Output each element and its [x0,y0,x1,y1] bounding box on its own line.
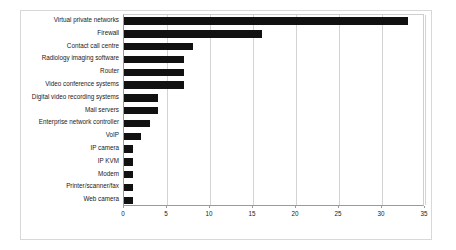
x-tick-label-20: 20 [291,210,298,217]
category-label: IP camera [90,142,119,155]
bar-row [124,66,423,79]
category-label: Web camera [83,193,119,206]
category-label: Video conference systems [45,78,119,91]
x-tick-mark-10 [209,206,210,208]
bar-row [124,181,423,194]
bar [124,30,262,37]
category-label: Virtual private networks [54,14,119,27]
x-tick-label-35: 35 [420,210,427,217]
bar-row [124,117,423,130]
bar [124,197,133,204]
bar-row [124,41,423,54]
category-label: Digital video recording systems [32,91,119,104]
bar-row [124,15,423,28]
bar [124,43,193,50]
x-tick-mark-35 [424,206,425,208]
category-label: Printer/scanner/fax [66,180,119,193]
bar [124,56,184,63]
x-tick-mark-5 [166,206,167,208]
bar [124,107,158,114]
bar [124,184,133,191]
bar [124,120,150,127]
x-tick-label-0: 0 [121,210,125,217]
bar-chart: Virtual private networksFirewallContact … [0,0,456,250]
bar [124,158,133,165]
category-label: Contact call centre [67,40,119,53]
x-tick-mark-30 [381,206,382,208]
x-tick-mark-15 [252,206,253,208]
bar [124,81,184,88]
bar-row [124,105,423,118]
x-tick-label-30: 30 [377,210,384,217]
bar-rows [124,15,423,205]
gridline-35 [425,15,426,205]
x-tick-label-10: 10 [205,210,212,217]
category-label: Enterprise network controller [39,116,119,129]
bar [124,145,133,152]
category-label: Firewall [97,27,119,40]
bar-row [124,92,423,105]
category-label: Router [100,65,119,78]
category-label: VoIP [106,129,119,142]
x-tick-label-25: 25 [334,210,341,217]
bar [124,69,184,76]
x-tick-label-15: 15 [248,210,255,217]
bar [124,17,408,24]
bar-row [124,194,423,207]
bar [124,133,141,140]
plot-area [123,14,424,206]
category-label: Modem [98,168,119,181]
category-label: Radiology imaging software [42,52,119,65]
x-tick-mark-20 [295,206,296,208]
bar-row [124,156,423,169]
x-axis-ticks: 05101520253035 [123,208,424,222]
bar-row [124,28,423,41]
x-tick-mark-25 [338,206,339,208]
bar-row [124,130,423,143]
bar-row [124,79,423,92]
bar-row [124,169,423,182]
bar [124,94,158,101]
category-label: IP KVM [98,155,119,168]
bar-row [124,53,423,66]
x-tick-mark-0 [123,206,124,208]
category-label: Mail servers [85,104,119,117]
x-tick-label-5: 5 [164,210,168,217]
bar [124,171,133,178]
bar-row [124,143,423,156]
